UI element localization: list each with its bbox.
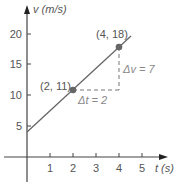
y-axis-label: v (m/s) [33,3,67,15]
velocity-time-chart: 1 2 3 4 5 5 10 15 20 v (m/s) t (s) (2, 1… [0,0,183,192]
x-tick-label: 4 [116,162,122,174]
x-tick-label: 5 [139,162,145,174]
y-tick-label: 15 [10,58,22,70]
x-axis-label: t (s) [155,162,174,174]
delta-v-annotation: Δv = 7 [122,63,155,75]
delta-t-annotation: Δt = 2 [77,94,107,106]
y-tick-label: 5 [16,120,22,132]
point-label: (2, 11) [40,80,71,92]
x-axis-arrow-icon [159,154,168,160]
point-label: (4, 18) [96,28,128,40]
x-tick-label: 3 [93,162,99,174]
x-tick-label: 1 [47,162,53,174]
x-tick-label: 2 [70,162,76,174]
y-axis-arrow-icon [24,5,30,14]
y-tick-label: 10 [10,89,22,101]
data-point [116,44,123,51]
y-tick-label: 20 [10,28,22,40]
